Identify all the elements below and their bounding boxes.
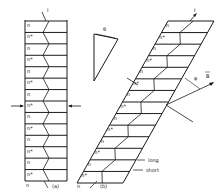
left-arrowhead-icon bbox=[20, 105, 24, 108]
triangle-angle-label: θ bbox=[103, 26, 106, 32]
panel-a-row-label: n bbox=[27, 136, 30, 142]
panel-a-label: (a) bbox=[52, 183, 59, 189]
panel-a-row-label: n* bbox=[27, 125, 33, 131]
panel-b-row-label: n* bbox=[81, 172, 87, 178]
normal-line bbox=[166, 105, 193, 122]
panel-b-row-label: n* bbox=[94, 149, 100, 155]
panel-a-row-label: n bbox=[27, 45, 30, 51]
panel-a-row-label: n bbox=[27, 22, 30, 28]
panel-a-vector-label: I bbox=[47, 7, 48, 13]
panel-b-row-label: n bbox=[127, 91, 130, 97]
diagram-stage: nn*nn*nn*nn*nn*nn*nn* I n (a) θ nn*nn*nn… bbox=[0, 0, 224, 196]
panel-a-row-label: n* bbox=[27, 102, 33, 108]
panel-a-rungs bbox=[25, 21, 67, 181]
panel-a-row-label: n* bbox=[27, 56, 33, 62]
panel-a-row-label: n bbox=[27, 159, 30, 165]
panel-a-leader-line bbox=[44, 181, 48, 188]
panel-a-row-label: n* bbox=[27, 79, 33, 85]
panel-b-bottom-label: n bbox=[77, 183, 80, 189]
panel-a-vector-arrow-icon bbox=[42, 12, 46, 21]
panel-b-leader-line bbox=[90, 181, 97, 188]
panel-a-bottom-label: n bbox=[26, 182, 29, 188]
phi-angle-arc bbox=[185, 78, 200, 89]
panel-a-row-label: n* bbox=[27, 171, 33, 177]
panel-b-row-label: n* bbox=[159, 34, 165, 40]
liquid-crystal-diagram: nn*nn*nn*nn*nn*nn*nn* I n (a) θ nn*nn*nn… bbox=[0, 0, 224, 196]
panel-b-row-label: n bbox=[166, 22, 169, 28]
panel-b-row-label: n* bbox=[146, 57, 152, 63]
panel-b-row-label: n bbox=[101, 138, 104, 144]
panel-a-row-labels: nn*nn*nn*nn*nn*nn*nn* bbox=[27, 22, 33, 177]
field-arrowhead-icon bbox=[209, 82, 214, 86]
panel-b-row-label: n* bbox=[120, 103, 126, 109]
panel-b-row-label: n bbox=[114, 115, 117, 121]
panel-a-row-label: n* bbox=[27, 33, 33, 39]
tilt-angle-triangle bbox=[94, 34, 118, 81]
panel-b-rungs bbox=[77, 21, 214, 183]
panel-b-row-label: n bbox=[140, 68, 143, 74]
triangle-angle-arc bbox=[96, 34, 115, 38]
panel-a-row-label: n bbox=[27, 91, 30, 97]
panel-b-vector-label: I bbox=[194, 7, 195, 13]
panel-a-row-label: n bbox=[27, 113, 30, 119]
panel-b-row-label: n* bbox=[107, 126, 113, 132]
panel-b-row-label: n bbox=[153, 45, 156, 51]
right-arrowhead-icon bbox=[68, 105, 72, 108]
panel-a-row-label: n bbox=[27, 68, 30, 74]
long-annotation: long bbox=[148, 157, 159, 164]
panel-b-label: (b) bbox=[100, 183, 107, 189]
panel-b-row-label: n bbox=[88, 161, 91, 167]
field-label: B bbox=[206, 73, 210, 79]
short-annotation: short bbox=[146, 167, 159, 173]
phi-angle-label: φ bbox=[194, 75, 198, 82]
panel-a-row-label: n* bbox=[27, 148, 33, 154]
